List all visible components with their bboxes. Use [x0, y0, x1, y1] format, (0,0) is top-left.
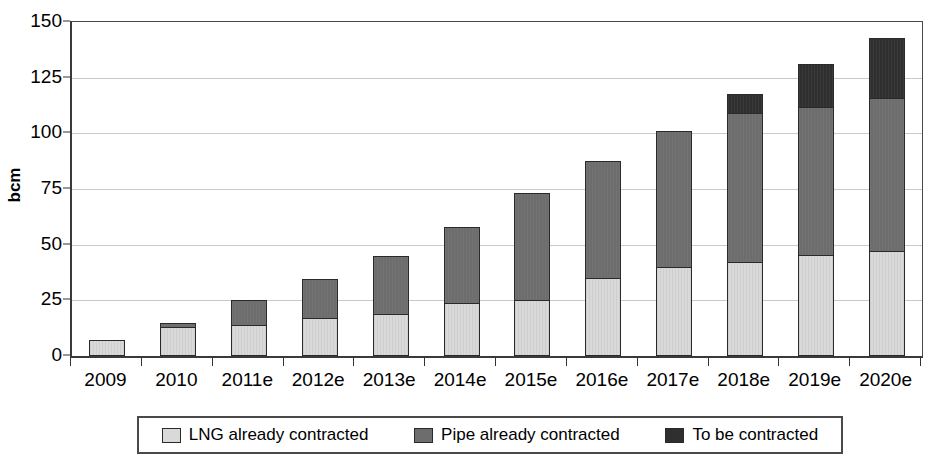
x-axis-tick-mark: [424, 357, 425, 366]
bar-slot: [426, 22, 497, 356]
bar-segment-pipe-contracted: [727, 113, 763, 262]
stacked-bar[interactable]: [514, 193, 550, 356]
stacked-bar[interactable]: [585, 161, 621, 356]
x-axis-tick-label: 2017e: [637, 366, 708, 396]
x-axis-tick-mark: [849, 357, 850, 366]
legend-label: Pipe already contracted: [441, 425, 620, 445]
legend-swatch: [665, 428, 684, 443]
bar-slot: [143, 22, 214, 356]
bar-segment-pipe-contracted: [514, 193, 550, 300]
legend-item[interactable]: LNG already contracted: [158, 425, 373, 445]
x-axis-tick-mark: [778, 357, 779, 366]
x-axis-tick-mark: [353, 357, 354, 366]
y-axis-tick-label: 75: [41, 177, 62, 199]
plot-area: [70, 21, 923, 358]
y-axis-tick-label: 0: [51, 344, 62, 366]
x-axis-tick-label: 2020e: [850, 366, 921, 396]
x-axis-tick-mark: [708, 357, 709, 366]
bar-segment-to-be-contracted: [727, 94, 763, 113]
x-axis-tick-mark: [566, 357, 567, 366]
bar-segment-pipe-contracted: [444, 227, 480, 303]
bar-segment-lng-contracted: [727, 262, 763, 356]
stacked-bar[interactable]: [798, 64, 834, 356]
bar-segment-lng-contracted: [869, 251, 905, 356]
bar-segment-pipe-contracted: [656, 131, 692, 267]
x-axis-tick-mark: [920, 357, 921, 366]
bar-group: [72, 22, 922, 356]
bar-segment-pipe-contracted: [869, 98, 905, 252]
stacked-bar[interactable]: [373, 256, 409, 356]
bar-slot: [780, 22, 851, 356]
x-axis-tick-mark: [283, 357, 284, 366]
stacked-bar[interactable]: [231, 300, 267, 356]
y-axis-tick-mark: [63, 76, 70, 77]
legend-swatch: [162, 428, 181, 443]
x-axis-tick-label: 2011e: [212, 366, 283, 396]
x-axis-tick-label: 2009: [70, 366, 141, 396]
y-axis-tick-mark: [63, 132, 70, 133]
x-axis-tick-label: 2016e: [566, 366, 637, 396]
y-axis-tick-mark: [63, 243, 70, 244]
bar-slot: [72, 22, 143, 356]
bar-segment-lng-contracted: [656, 267, 692, 356]
x-axis-tick-mark: [70, 357, 71, 366]
bar-segment-pipe-contracted: [373, 256, 409, 314]
x-axis-tick-label: 2012e: [283, 366, 354, 396]
bar-segment-lng-contracted: [444, 303, 480, 356]
x-axis-tick-label: 2018e: [708, 366, 779, 396]
bar-segment-pipe-contracted: [302, 279, 338, 318]
stacked-bar[interactable]: [302, 279, 338, 356]
y-axis-tick-label: 50: [41, 233, 62, 255]
y-axis-tick-label: 100: [30, 121, 62, 143]
y-axis-tick-mark: [63, 188, 70, 189]
legend-item[interactable]: To be contracted: [661, 425, 822, 445]
x-axis-tick-mark: [212, 357, 213, 366]
bar-slot: [497, 22, 568, 356]
chart-legend: LNG already contractedPipe already contr…: [137, 416, 843, 454]
bar-segment-lng-contracted: [89, 340, 125, 356]
y-axis-tick-label: 125: [30, 66, 62, 88]
x-axis-tick-mark: [637, 357, 638, 366]
bar-slot: [568, 22, 639, 356]
y-axis-title-text: bcm: [5, 168, 25, 203]
bar-segment-lng-contracted: [514, 300, 550, 356]
y-axis-tick-mark: [63, 299, 70, 300]
bar-slot: [639, 22, 710, 356]
bar-segment-lng-contracted: [302, 318, 338, 356]
bar-segment-lng-contracted: [585, 278, 621, 356]
stacked-bar[interactable]: [89, 340, 125, 356]
bar-segment-pipe-contracted: [798, 107, 834, 255]
x-axis-tick-label: 2010: [141, 366, 212, 396]
y-axis-tick-label: 25: [41, 288, 62, 310]
stacked-bar[interactable]: [160, 323, 196, 356]
bar-segment-lng-contracted: [231, 325, 267, 356]
x-axis-tick-label: 2014e: [425, 366, 496, 396]
bar-slot: [851, 22, 922, 356]
bar-segment-to-be-contracted: [798, 64, 834, 106]
stacked-bar[interactable]: [656, 131, 692, 356]
stacked-bar[interactable]: [869, 38, 905, 356]
x-axis-tick-label: 2015e: [496, 366, 567, 396]
bar-segment-lng-contracted: [373, 314, 409, 356]
bar-slot: [355, 22, 426, 356]
y-axis-tick-mark: [63, 355, 70, 356]
legend-label: LNG already contracted: [189, 425, 369, 445]
stacked-bar[interactable]: [444, 227, 480, 356]
bar-segment-to-be-contracted: [869, 38, 905, 98]
bar-segment-pipe-contracted: [585, 161, 621, 278]
x-axis-tick-label: 2019e: [779, 366, 850, 396]
x-axis-tick-mark: [141, 357, 142, 366]
y-axis-tick-mark: [63, 21, 70, 22]
bar-segment-lng-contracted: [798, 255, 834, 356]
legend-item[interactable]: Pipe already contracted: [410, 425, 624, 445]
stacked-bar-chart: bcm 0255075100125150 200920102011e2012e2…: [0, 0, 929, 473]
y-axis-tick-label: 150: [30, 10, 62, 32]
bar-slot: [284, 22, 355, 356]
y-axis-tick-labels: 0255075100125150: [26, 0, 70, 370]
bar-segment-pipe-contracted: [231, 300, 267, 324]
stacked-bar[interactable]: [727, 94, 763, 356]
x-axis-tick-labels: 200920102011e2012e2013e2014e2015e2016e20…: [70, 366, 921, 396]
bar-slot: [214, 22, 285, 356]
legend-swatch: [414, 428, 433, 443]
bar-segment-lng-contracted: [160, 327, 196, 356]
